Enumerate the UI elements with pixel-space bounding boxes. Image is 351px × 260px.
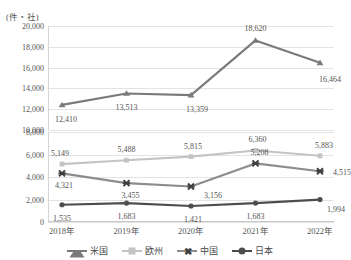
data-value-label: 3,455 <box>122 191 140 200</box>
data-point-marker <box>317 197 322 202</box>
data-value-label: 1,994 <box>327 204 345 213</box>
legend-item-china[interactable]: ✖中国 <box>177 244 218 257</box>
y-axis-tick-label: 12,000 <box>22 105 44 114</box>
legend-marker-icon <box>67 246 87 255</box>
plot-area-top: 10,00012,00014,00016,00018,00020,00012,4… <box>48 26 334 130</box>
legend-label: 米国 <box>90 244 108 257</box>
legend-marker-icon <box>232 246 252 255</box>
data-value-label: 13,513 <box>116 103 138 112</box>
chart-legend: 米国欧州✖中国日本 <box>0 243 340 258</box>
data-value-label: 1,535 <box>53 213 71 222</box>
y-axis-tick-label: 4,000 <box>26 173 44 182</box>
data-value-label: 5,815 <box>184 141 202 150</box>
data-value-label: 3,156 <box>204 191 222 200</box>
legend-item-europe[interactable]: 欧州 <box>122 244 163 257</box>
legend-marker-icon <box>122 246 142 255</box>
y-axis-tick-label: 2,000 <box>26 195 44 204</box>
legend-item-japan[interactable]: 日本 <box>232 244 273 257</box>
x-axis-tick-label: 2018年 <box>49 224 75 236</box>
x-axis-tick-label: 2021年 <box>243 224 269 236</box>
y-axis-tick-label: 16,000 <box>22 63 44 72</box>
gridline <box>48 130 334 131</box>
y-axis-unit-label: (件・社) <box>6 10 39 22</box>
data-value-label: 1,683 <box>247 212 265 221</box>
data-point-marker <box>124 158 129 163</box>
y-axis-tick-label: 18,000 <box>22 42 44 51</box>
data-point-marker <box>316 168 323 174</box>
x-axis-tick-label: 2022年 <box>307 224 333 236</box>
data-point-marker <box>58 170 65 176</box>
data-point-marker <box>59 202 64 207</box>
y-axis-tick-label: 14,000 <box>22 84 44 93</box>
data-value-label: 1,421 <box>184 215 202 224</box>
data-value-label: 5,149 <box>51 149 69 158</box>
data-value-label: 5,208 <box>251 148 269 157</box>
data-value-label: 6,360 <box>249 135 267 144</box>
data-value-label: 16,464 <box>319 74 341 83</box>
data-value-label: 18,620 <box>245 24 267 33</box>
data-value-label: 4,321 <box>55 181 73 190</box>
data-point-marker <box>252 37 259 43</box>
data-value-label: 5,488 <box>118 145 136 154</box>
legend-item-us[interactable]: 米国 <box>67 244 108 257</box>
x-axis-tick-label: 2019年 <box>114 224 140 236</box>
data-value-label: 1,683 <box>118 212 136 221</box>
data-value-label: 13,359 <box>186 105 208 114</box>
x-axis-tick-labels: 2018年2019年2020年2021年2022年 <box>48 224 334 238</box>
data-point-marker <box>189 154 194 159</box>
legend-label: 欧州 <box>145 244 163 257</box>
legend-marker-icon: ✖ <box>177 246 197 255</box>
data-point-marker <box>187 183 194 189</box>
y-axis-tick-label: 8,000 <box>26 128 44 137</box>
data-value-label: 4,515 <box>333 168 351 177</box>
data-point-marker <box>188 203 193 208</box>
x-axis-tick-label: 2020年 <box>178 224 204 236</box>
chart-panel-bottom: 02,0004,0006,0008,0005,1495,4885,8156,36… <box>48 132 334 222</box>
data-point-marker <box>123 180 130 186</box>
legend-label: 中国 <box>200 244 218 257</box>
data-value-label: 5,883 <box>315 140 333 149</box>
data-value-label: 12,410 <box>55 114 77 123</box>
series-graphics <box>48 26 334 130</box>
y-axis-tick-label: 20,000 <box>22 22 44 31</box>
y-axis-tick-label: 0 <box>40 218 44 227</box>
data-point-marker <box>124 200 129 205</box>
y-axis-tick-label: 6,000 <box>26 150 44 159</box>
chart-panel-top: 10,00012,00014,00016,00018,00020,00012,4… <box>48 26 334 130</box>
plot-area-bottom: 02,0004,0006,0008,0005,1495,4885,8156,36… <box>48 132 334 222</box>
data-point-marker <box>318 153 323 158</box>
data-point-marker <box>252 160 259 166</box>
legend-label: 日本 <box>255 244 273 257</box>
data-point-marker <box>253 200 258 205</box>
data-point-marker <box>60 162 65 167</box>
series-line <box>62 163 320 186</box>
